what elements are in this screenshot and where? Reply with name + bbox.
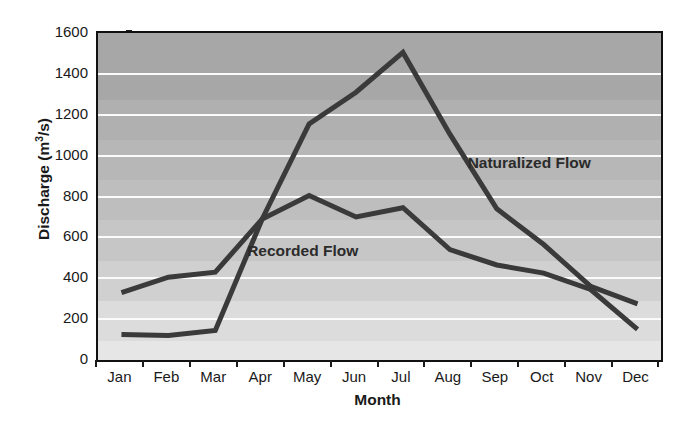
x-tick-mark <box>611 360 613 367</box>
y-tick-label: 0 <box>36 351 88 366</box>
x-axis-tick-labels: JanFebMarAprMayJunJulAugSepOctNovDec <box>96 368 659 390</box>
y-tick-label: 1600 <box>36 24 88 39</box>
x-tick-mark <box>517 360 519 367</box>
x-tick-mark <box>330 360 332 367</box>
naturalized-flow-line <box>121 52 637 335</box>
x-tick-mark <box>470 360 472 367</box>
y-tick-label: 1400 <box>36 64 88 79</box>
x-tick-mark <box>657 360 659 367</box>
x-tick-mark <box>236 360 238 367</box>
x-tick-mark <box>189 360 191 367</box>
x-tick-mark <box>423 360 425 367</box>
y-tick-label: 600 <box>36 228 88 243</box>
x-tick-mark <box>95 360 97 367</box>
x-tick-mark <box>564 360 566 367</box>
recorded-flow-label: Recorded Flow <box>247 242 358 260</box>
series-lines <box>98 33 661 360</box>
x-tick-label: Dec <box>622 368 649 385</box>
x-tick-label: Aug <box>435 368 462 385</box>
x-tick-label: Nov <box>575 368 602 385</box>
x-axis-title: Month <box>96 391 659 409</box>
x-tick-label: Feb <box>153 368 179 385</box>
plot-area: Naturalized Flow Recorded Flow <box>96 31 663 362</box>
y-tick-label: 800 <box>36 187 88 202</box>
y-axis-ticks: 02004006008001000120014001600 <box>36 0 88 428</box>
y-tick-label: 1000 <box>36 146 88 161</box>
x-tick-mark <box>142 360 144 367</box>
x-tick-label: Jul <box>391 368 410 385</box>
y-tick-label: 200 <box>36 310 88 325</box>
x-axis-tick-marks <box>96 360 659 368</box>
y-tick-label: 400 <box>36 269 88 284</box>
x-tick-label: Apr <box>249 368 272 385</box>
x-tick-mark <box>377 360 379 367</box>
discharge-line-chart: Discharge (m3/s) 02004006008001000120014… <box>0 0 696 428</box>
x-tick-label: Sep <box>481 368 508 385</box>
x-tick-label: Oct <box>530 368 553 385</box>
naturalized-flow-label: Naturalized Flow <box>468 154 591 172</box>
y-tick-label: 1200 <box>36 105 88 120</box>
x-tick-label: Jun <box>342 368 366 385</box>
x-tick-label: Jan <box>107 368 131 385</box>
x-tick-label: Mar <box>200 368 226 385</box>
x-tick-mark <box>283 360 285 367</box>
x-tick-label: May <box>293 368 321 385</box>
